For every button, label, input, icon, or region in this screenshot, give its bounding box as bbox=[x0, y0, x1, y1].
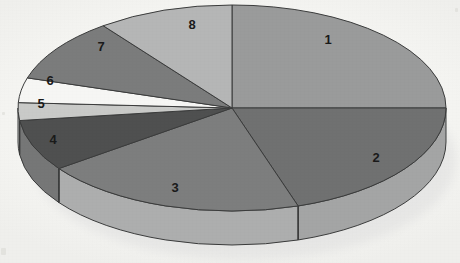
scan-speck bbox=[455, 8, 458, 12]
slice-label-4: 4 bbox=[49, 133, 56, 146]
slice-label-3: 3 bbox=[171, 181, 178, 194]
slice-label-1: 1 bbox=[324, 33, 331, 46]
slice-label-7: 7 bbox=[97, 40, 104, 53]
scan-speck bbox=[2, 112, 5, 115]
slice-label-6: 6 bbox=[46, 74, 53, 87]
pie-chart-canvas bbox=[0, 0, 460, 263]
slice-label-2: 2 bbox=[372, 151, 379, 164]
pie-slice-1[interactable] bbox=[232, 5, 446, 108]
pie-chart-figure: 12345678 bbox=[0, 0, 460, 263]
scan-speck bbox=[1, 248, 6, 255]
slice-label-8: 8 bbox=[188, 18, 195, 31]
pie-top-face bbox=[18, 5, 446, 211]
slice-label-5: 5 bbox=[37, 97, 44, 110]
